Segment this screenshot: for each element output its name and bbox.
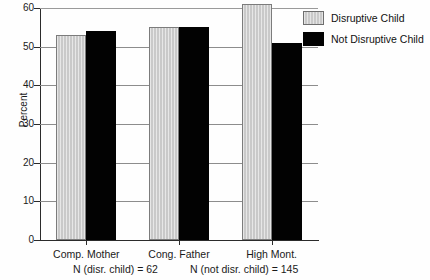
chart-figure: 0102030405060 Percent Disruptive ChildNo… xyxy=(0,0,430,280)
x-axis-label: High Mont. xyxy=(212,249,332,260)
y-axis-tick-label: 50 xyxy=(8,42,34,52)
bar xyxy=(149,27,179,240)
y-axis-labels: 0102030405060 xyxy=(0,0,34,280)
y-axis-tick-label: 10 xyxy=(8,196,34,206)
legend-label: Disruptive Child xyxy=(331,13,405,24)
chart-legend: Disruptive ChildNot Disruptive Child xyxy=(303,9,424,51)
y-axis-tick-label: 20 xyxy=(8,158,34,168)
bar xyxy=(272,43,302,240)
legend-item[interactable]: Disruptive Child xyxy=(303,9,424,27)
y-axis-tick xyxy=(34,163,40,164)
bar xyxy=(242,4,272,240)
y-axis-tick xyxy=(34,201,40,202)
y-axis-tick xyxy=(34,85,40,86)
y-axis-tick-label: 60 xyxy=(8,3,34,13)
bar xyxy=(56,35,86,240)
y-axis-title: Percent xyxy=(19,80,29,140)
y-axis-tick-label: 0 xyxy=(8,235,34,245)
bar xyxy=(179,27,209,240)
x-axis-tick xyxy=(86,240,87,245)
y-axis-tick xyxy=(34,124,40,125)
y-axis-tick xyxy=(34,8,40,9)
x-axis-tick xyxy=(179,240,180,245)
y-axis-tick xyxy=(34,240,40,241)
footnote-not-disruptive-n: N (not disr. child) = 145 xyxy=(190,264,298,275)
legend-item[interactable]: Not Disruptive Child xyxy=(303,30,424,48)
bar xyxy=(86,31,116,240)
legend-swatch-black xyxy=(303,32,324,46)
footnote-disruptive-n: N (disr. child) = 62 xyxy=(73,264,158,275)
legend-label: Not Disruptive Child xyxy=(331,34,424,45)
legend-swatch-gray xyxy=(303,11,324,25)
y-axis-tick xyxy=(34,47,40,48)
gridline xyxy=(40,8,318,9)
x-axis-tick xyxy=(272,240,273,245)
plot-area xyxy=(40,8,318,240)
